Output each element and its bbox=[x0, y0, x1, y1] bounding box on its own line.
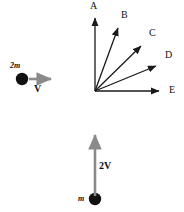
vector-label-D: D bbox=[165, 50, 172, 60]
left-mass-label: 2m bbox=[10, 62, 20, 70]
vector-label-A: A bbox=[90, 1, 97, 11]
left-mass-body bbox=[16, 73, 28, 85]
vector-label-C: C bbox=[149, 28, 156, 38]
vector-arrow-B bbox=[95, 28, 118, 91]
vector-label-E: E bbox=[169, 85, 175, 95]
vector-arrow-D bbox=[95, 66, 156, 91]
diagram-vector-graphics bbox=[0, 0, 184, 212]
physics-diagram-canvas: 2m V m 2V A B C D E bbox=[0, 0, 184, 212]
vector-label-B: B bbox=[121, 10, 128, 20]
bottom-mass-label: m bbox=[78, 195, 84, 203]
left-velocity-label: V bbox=[34, 84, 41, 94]
vector-arrow-C bbox=[95, 46, 141, 91]
bottom-velocity-label: 2V bbox=[99, 161, 111, 171]
